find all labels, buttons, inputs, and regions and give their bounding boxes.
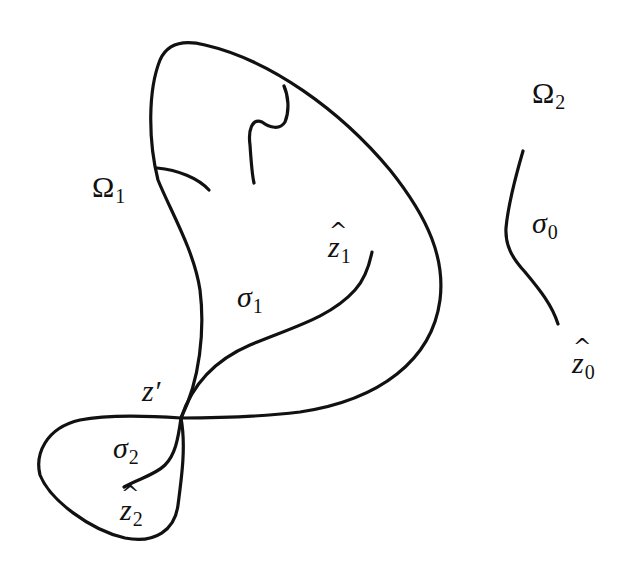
zprime-symbol: z′ (142, 374, 160, 407)
omega1-symbol: Ω (92, 170, 114, 203)
zhat1-label: ^ z1 (328, 232, 351, 266)
inner-cut-curve (250, 86, 288, 183)
sigma0-symbol: σ (532, 206, 547, 239)
zhat0-label: ^ z0 (572, 348, 595, 382)
diagram-canvas: Ω1 Ω2 σ0 σ1 σ2 z′ ^ z1 ^ z0 ^ z2 (0, 0, 632, 566)
omega2-label: Ω2 (532, 78, 565, 112)
omega1-label: Ω1 (92, 172, 125, 206)
sigma1-symbol: σ (237, 280, 252, 313)
sigma2-symbol: σ (113, 431, 128, 464)
hat-accent-icon: ^ (573, 336, 591, 358)
zprime-label: z′ (142, 376, 160, 406)
sigma0-subscript: 0 (548, 221, 558, 243)
sigma2-label: σ2 (113, 433, 139, 467)
zhat2-subscript: 2 (133, 508, 143, 530)
hat-accent-icon: ^ (121, 483, 139, 505)
sigma1-subscript: 1 (253, 295, 263, 317)
zhat1-subscript: 1 (341, 245, 351, 267)
sigma0-label: σ0 (532, 208, 558, 242)
omega1-boundary (151, 43, 441, 418)
zhat0-subscript: 0 (585, 361, 595, 383)
omega1-arc (157, 168, 209, 190)
omega1-subscript: 1 (115, 185, 125, 207)
omega2-subscript: 2 (555, 91, 565, 113)
omega2-symbol: Ω (532, 76, 554, 109)
sigma2-subscript: 2 (129, 446, 139, 468)
zhat2-label: ^ z2 (120, 495, 143, 529)
lower-loop (39, 416, 184, 539)
sigma1-curve (181, 252, 372, 418)
hat-accent-icon: ^ (329, 220, 347, 242)
sigma1-label: σ1 (237, 282, 263, 316)
